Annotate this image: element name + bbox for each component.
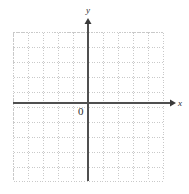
coordinate-plane-figure	[0, 0, 189, 194]
y-axis-label: y	[86, 6, 90, 15]
origin-label: 0	[78, 106, 84, 117]
x-axis-label: x	[178, 99, 182, 108]
